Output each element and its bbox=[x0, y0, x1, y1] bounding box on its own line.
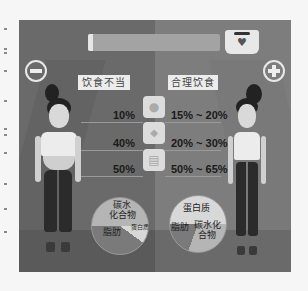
nutrient-tile-protein[interactable]: ● bbox=[143, 96, 165, 118]
healthy-character bbox=[228, 84, 268, 262]
minus-button[interactable] bbox=[25, 60, 47, 82]
nutrient-tile-fat[interactable]: ◆ bbox=[143, 122, 165, 144]
good-diet-label: 合理饮食 bbox=[168, 75, 218, 90]
oil-drop-icon: ◆ bbox=[143, 122, 165, 144]
minus-icon bbox=[30, 69, 42, 73]
pie-label-protein: 蛋白质 bbox=[183, 203, 210, 213]
line bbox=[81, 176, 143, 177]
pie-label-carb: 碳水化合物 bbox=[191, 220, 223, 240]
unhealthy-character bbox=[35, 84, 81, 259]
line bbox=[165, 176, 221, 177]
line bbox=[81, 150, 143, 151]
pie-label-fat: 脂肪 bbox=[103, 227, 121, 237]
edge-marks bbox=[0, 0, 18, 291]
plus-icon-v bbox=[272, 65, 276, 77]
line bbox=[165, 122, 221, 123]
heart-jar: ♥ bbox=[225, 30, 259, 54]
pie-label-protein: 蛋白质 bbox=[131, 222, 149, 232]
nutrient-tile-carb[interactable]: ▤ bbox=[143, 149, 165, 171]
line bbox=[165, 150, 221, 151]
health-bar-shine bbox=[88, 34, 93, 51]
good-fat-pct: 20% ~ 30% bbox=[171, 137, 228, 149]
bad-carb-pct: 50% bbox=[97, 163, 135, 175]
bad-diet-label: 饮食不当 bbox=[78, 75, 130, 90]
pie-label-fat: 脂肪 bbox=[171, 222, 189, 232]
good-protein-pct: 15% ~ 20% bbox=[171, 109, 228, 121]
heart-icon: ♥ bbox=[237, 37, 247, 48]
line bbox=[81, 122, 143, 123]
bad-protein-pct: 10% bbox=[97, 109, 135, 121]
game-scene: ♥ 饮食不当 合理饮食 ● 10% 15% ~ 20% ◆ 40% 20% ~ … bbox=[19, 20, 291, 272]
pie-label-carb: 碳水化合物 bbox=[105, 200, 139, 220]
egg-icon: ● bbox=[143, 96, 165, 118]
health-bar bbox=[88, 34, 220, 51]
good-carb-pct: 50% ~ 65% bbox=[171, 163, 228, 175]
jar-lid bbox=[234, 32, 250, 35]
grain-jar-icon: ▤ bbox=[143, 149, 165, 171]
bad-fat-pct: 40% bbox=[97, 137, 135, 149]
plus-button[interactable] bbox=[263, 60, 285, 82]
